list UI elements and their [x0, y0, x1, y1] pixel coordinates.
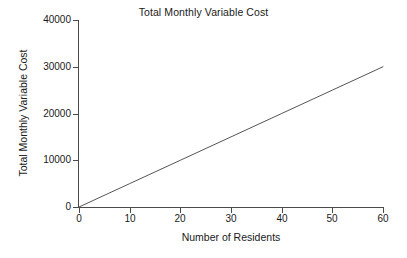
chart-figure: Total Monthly Variable Cost 010000200003… [0, 0, 407, 258]
x-axis-title: Number of Residents [79, 231, 383, 244]
plot-area [79, 20, 383, 207]
y-axis-title: Total Monthly Variable Cost [17, 13, 29, 213]
